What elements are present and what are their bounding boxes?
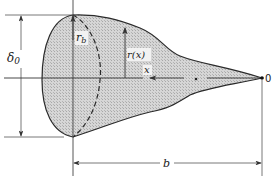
body-diagram: δ0 rb r(x) x 0 b [0, 0, 272, 183]
origin-label: 0 [265, 73, 271, 84]
x-label: x [144, 64, 150, 75]
b-label: b [163, 157, 170, 170]
rx-label: r(x) [127, 49, 145, 60]
origin-dot [260, 76, 264, 80]
axis-dot [195, 78, 198, 81]
delta-zero-label: δ0 [7, 51, 20, 66]
